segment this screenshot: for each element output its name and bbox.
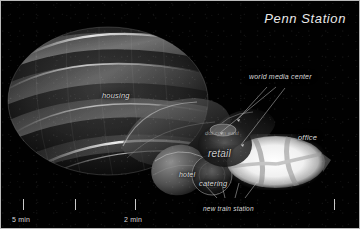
label-hotel: hotel — [179, 171, 195, 178]
scale-bar: 5 min 2 min — [1, 188, 359, 228]
scale-tick-1 — [23, 199, 24, 210]
penn-station-rendering: Penn Station housing hotel catering reta… — [0, 0, 360, 229]
scale-tick-3 — [135, 199, 136, 210]
label-dot-com: dot.com east — [205, 130, 239, 136]
label-world-media-center: world media center — [249, 73, 312, 80]
scale-tick-2 — [75, 199, 76, 210]
label-office: office — [298, 133, 317, 142]
scale-tick-4 — [334, 199, 335, 210]
scale-label-left: 5 min — [12, 216, 30, 223]
retail-mass — [197, 117, 253, 169]
label-retail: retail — [208, 148, 231, 159]
scale-label-right: 2 min — [124, 216, 142, 223]
rendering-canvas: Penn Station housing hotel catering reta… — [1, 1, 359, 228]
page-title: Penn Station — [264, 11, 346, 26]
label-catering: catering — [199, 179, 227, 188]
label-housing: housing — [102, 91, 130, 100]
